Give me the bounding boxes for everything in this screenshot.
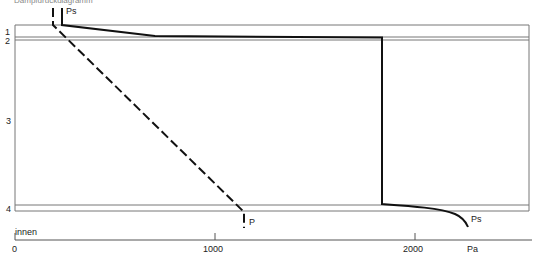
tick-label-1000: 1000 (203, 244, 223, 254)
pressure-axis (15, 233, 532, 240)
saturation-label-top: Ps (66, 6, 77, 16)
vapor-pressure-diagram: Dampfdruckdiagramm 1 2 3 4 Ps Ps P innen… (0, 0, 540, 259)
partial-pressure-label: P (249, 217, 255, 227)
tick-label-0: 0 (12, 244, 17, 254)
layer-label-4: 4 (6, 204, 11, 214)
partial-pressure-line (53, 8, 244, 228)
layer-label-3: 3 (6, 116, 11, 126)
tick-label-2000: 2000 (403, 244, 423, 254)
layer-frame (15, 25, 529, 211)
layer-label-2: 2 (5, 36, 10, 46)
unit-label: Pa (467, 244, 478, 254)
inside-label: innen (15, 227, 37, 237)
diagram-title: Dampfdruckdiagramm (14, 0, 93, 5)
saturation-pressure-curve (62, 8, 468, 227)
saturation-label-bottom: Ps (471, 214, 482, 224)
